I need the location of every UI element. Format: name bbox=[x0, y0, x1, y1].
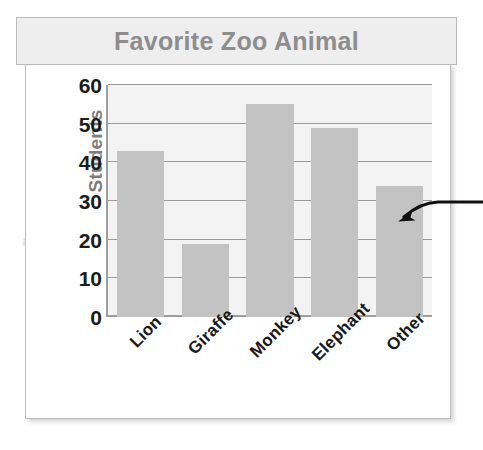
bar-slot bbox=[109, 85, 171, 317]
x-axis-tick-labels: LionGiraffeMonkeyElephantOther bbox=[106, 317, 432, 407]
y-tick-label: 20 bbox=[58, 229, 102, 250]
bar-other bbox=[376, 186, 423, 317]
x-tick-slot: Lion bbox=[106, 317, 171, 407]
bar-slot bbox=[239, 85, 301, 317]
bar-slot bbox=[368, 85, 430, 317]
x-tick-slot: Elephant bbox=[302, 317, 367, 407]
y-tick-label: 0 bbox=[58, 307, 102, 328]
x-tick-slot: Giraffe bbox=[171, 317, 236, 407]
chart-page: Chart 1.2 Grade 4 sample question 1.2.1 … bbox=[0, 0, 483, 450]
bar-series bbox=[108, 85, 432, 317]
y-tick-label: 10 bbox=[58, 268, 102, 289]
y-tick-label: 50 bbox=[58, 113, 102, 134]
chart-title-banner: Favorite Zoo Animal bbox=[16, 17, 457, 65]
bar-monkey bbox=[246, 104, 293, 317]
y-tick-label: 30 bbox=[58, 191, 102, 212]
x-tick-slot: Other bbox=[367, 317, 432, 407]
x-tick-label-lion: Lion bbox=[126, 312, 166, 352]
plot-area bbox=[106, 85, 432, 317]
chart-title: Favorite Zoo Animal bbox=[114, 27, 359, 56]
y-axis-tick-labels: 6050403020100 bbox=[58, 85, 102, 317]
bar-elephant bbox=[311, 128, 358, 317]
y-tick-label: 40 bbox=[58, 152, 102, 173]
bar-slot bbox=[304, 85, 366, 317]
x-tick-slot: Monkey bbox=[236, 317, 301, 407]
y-tick-label: 60 bbox=[58, 75, 102, 96]
bar-slot bbox=[174, 85, 236, 317]
bar-lion bbox=[117, 151, 164, 317]
